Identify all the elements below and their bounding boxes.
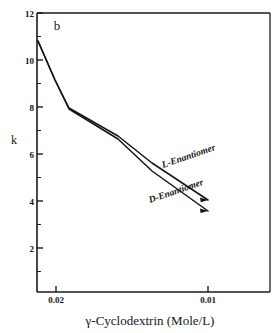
y-tick-label-12: 12 bbox=[25, 9, 35, 19]
y-tick-label-4: 4 bbox=[30, 197, 35, 207]
series-line-l-enantiomer bbox=[38, 41, 208, 200]
y-axis-tick-labels: 12 10 8 6 4 2 bbox=[25, 9, 35, 254]
x-axis-title: γ-Cyclodextrin (Mole/L) bbox=[85, 313, 215, 328]
x-axis-ticks bbox=[56, 286, 208, 292]
line-chart: 12 10 8 6 4 2 0.02 0.01 k γ-Cyclodextrin… bbox=[0, 0, 280, 333]
figure-panel-b: 12 10 8 6 4 2 0.02 0.01 k γ-Cyclodextrin… bbox=[0, 0, 280, 333]
y-tick-label-10: 10 bbox=[25, 56, 35, 66]
series-d-enantiomer-arrowhead bbox=[200, 208, 208, 213]
series-label-l-enantiomer: L-Enantiomer bbox=[159, 142, 216, 170]
series-l-enantiomer-arrowhead bbox=[200, 198, 208, 203]
y-tick-label-8: 8 bbox=[30, 103, 35, 113]
panel-label: b bbox=[54, 18, 61, 33]
y-tick-label-2: 2 bbox=[30, 244, 35, 254]
y-axis-label: k bbox=[11, 133, 17, 147]
y-tick-label-6: 6 bbox=[30, 150, 35, 160]
x-tick-label-0.02: 0.02 bbox=[48, 295, 64, 305]
axis-frame bbox=[37, 13, 270, 292]
x-axis-tick-labels: 0.02 0.01 bbox=[48, 295, 216, 305]
series-label-d-enantiomer: D-Enantiomer bbox=[146, 177, 204, 205]
x-tick-label-0.01: 0.01 bbox=[200, 295, 216, 305]
